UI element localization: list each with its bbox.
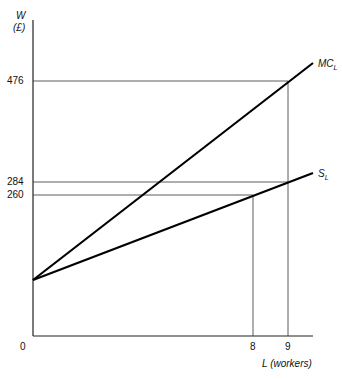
chart-canvas xyxy=(0,0,342,379)
y-tick-260: 260 xyxy=(7,189,24,200)
y-axis-label: W xyxy=(16,10,25,21)
y-tick-284: 284 xyxy=(7,176,24,187)
x-axis-label: L (workers) xyxy=(262,358,312,369)
mc-l-line xyxy=(33,63,313,280)
s-l-line xyxy=(33,173,313,280)
s-l-label: SL xyxy=(318,168,329,181)
x-tick-9: 9 xyxy=(285,341,291,352)
y-tick-476: 476 xyxy=(7,75,24,86)
mc-l-label: MCL xyxy=(318,58,337,71)
x-tick-8: 8 xyxy=(250,341,256,352)
origin-label: 0 xyxy=(20,341,26,352)
y-axis-unit: (£) xyxy=(13,22,25,33)
